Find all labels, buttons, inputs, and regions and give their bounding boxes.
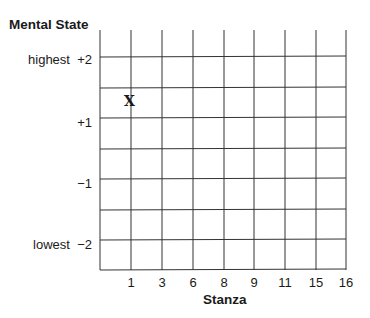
x-tick: 8 [209,275,239,290]
y-axis-title: Mental State [9,17,89,32]
x-tick: 16 [331,275,361,290]
y-tick-minus1: −1 [0,176,92,191]
data-point-marker: X [124,93,135,109]
y-tick-lowest: lowest −2 [0,237,92,252]
x-axis-title: Stanza [203,292,247,307]
y-tick-highest: highest +2 [0,52,92,67]
y-tick-plus1: +1 [0,115,92,130]
x-tick: 9 [239,275,269,290]
x-tick: 3 [147,275,177,290]
x-tick: 1 [116,275,146,290]
x-tick: 15 [301,275,331,290]
x-tick: 11 [270,275,300,290]
chart-grid [0,0,370,318]
x-tick: 6 [178,275,208,290]
